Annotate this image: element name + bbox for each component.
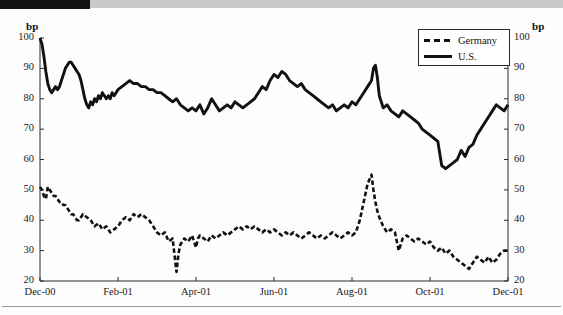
y-tick-label-right: 50 (514, 183, 536, 194)
y-tick-label-left: 100 (12, 31, 34, 42)
y-tick-label-left: 60 (12, 153, 34, 164)
series-line-germany (40, 175, 508, 272)
x-tick-label: Feb-01 (88, 286, 148, 297)
x-tick-label: Oct-01 (400, 286, 460, 297)
legend-label-germany: Germany (458, 35, 497, 46)
solid-line-icon (424, 51, 452, 61)
figure-container: bp bp 2030405060708090100 20304050607080… (0, 0, 563, 315)
y-tick-label-right: 80 (514, 92, 536, 103)
y-tick-label-left: 80 (12, 92, 34, 103)
y-tick-label-right: 20 (514, 274, 536, 285)
y-tick-label-right: 30 (514, 244, 536, 255)
legend-entry-us: U.S. (424, 48, 477, 64)
y-tick-label-left: 40 (12, 213, 34, 224)
y-tick-label-left: 20 (12, 274, 34, 285)
y-tick-label-left: 30 (12, 244, 34, 255)
y-tick-label-right: 70 (514, 122, 536, 133)
y-tick-label-left: 50 (12, 183, 34, 194)
legend: Germany U.S. (418, 29, 510, 66)
y-tick-label-right: 90 (514, 61, 536, 72)
x-tick-label: Dec-00 (10, 286, 70, 297)
legend-label-us: U.S. (458, 51, 477, 62)
y-tick-label-left: 90 (12, 61, 34, 72)
y-tick-label-right: 100 (514, 31, 536, 42)
x-tick-label: Apr-01 (166, 286, 226, 297)
x-tick-label: Jun-01 (244, 286, 304, 297)
dashed-line-icon (424, 35, 452, 45)
x-tick-label: Dec-01 (478, 286, 538, 297)
y-tick-label-right: 60 (514, 153, 536, 164)
y-tick-label-right: 40 (514, 213, 536, 224)
legend-entry-germany: Germany (424, 32, 497, 48)
y-tick-label-left: 70 (12, 122, 34, 133)
x-tick-label: Aug-01 (322, 286, 382, 297)
footer-divider (2, 306, 561, 307)
